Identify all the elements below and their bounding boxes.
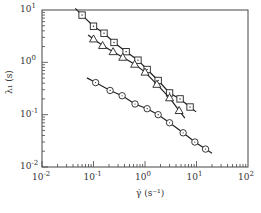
x-axis-label: γ̇ (s⁻¹) xyxy=(136,188,164,198)
plot-frame xyxy=(42,10,248,167)
x-tick-label: 101 xyxy=(187,170,203,182)
triangle-marker xyxy=(90,35,98,42)
square-marker-dot xyxy=(103,33,104,34)
x-tick-label: 102 xyxy=(238,170,254,182)
square-marker-dot xyxy=(137,60,138,61)
circle-marker-dot xyxy=(169,122,170,123)
circle-marker-dot xyxy=(183,132,184,133)
circle-marker-dot xyxy=(194,141,195,142)
square-marker-dot xyxy=(113,42,114,43)
circle-marker-dot xyxy=(109,90,110,91)
y-axis-label: λ₁ (s) xyxy=(4,70,14,94)
circle-marker-dot xyxy=(158,114,159,115)
circle-marker-dot xyxy=(95,82,96,83)
square-marker-dot xyxy=(179,98,180,99)
y-tick-label: 101 xyxy=(20,2,36,14)
circle-marker-dot xyxy=(205,148,206,149)
square-marker-dot xyxy=(126,51,127,52)
square-marker-dot xyxy=(93,26,94,27)
triangle-marker xyxy=(109,48,117,55)
circle-marker-dot xyxy=(122,95,123,96)
circle-marker-dot xyxy=(134,103,135,104)
square-marker-dot xyxy=(147,69,148,70)
x-tick-label: 10-2 xyxy=(32,170,50,182)
square-marker-dot xyxy=(189,106,190,107)
y-tick-label: 100 xyxy=(20,54,36,66)
square-marker-dot xyxy=(81,14,82,15)
square-marker-dot xyxy=(158,80,159,81)
triangle-marker xyxy=(99,41,107,48)
y-tick-label: 10-1 xyxy=(20,107,38,119)
x-tick-label: 100 xyxy=(135,170,151,182)
y-tick-label: 10-2 xyxy=(20,159,38,171)
x-tick-label: 10-1 xyxy=(84,170,102,182)
circle-marker-dot xyxy=(147,108,148,109)
